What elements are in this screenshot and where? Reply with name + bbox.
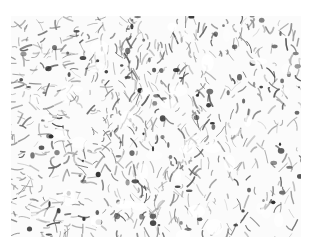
micrograph-image <box>11 16 301 237</box>
tissue-texture <box>11 16 301 237</box>
